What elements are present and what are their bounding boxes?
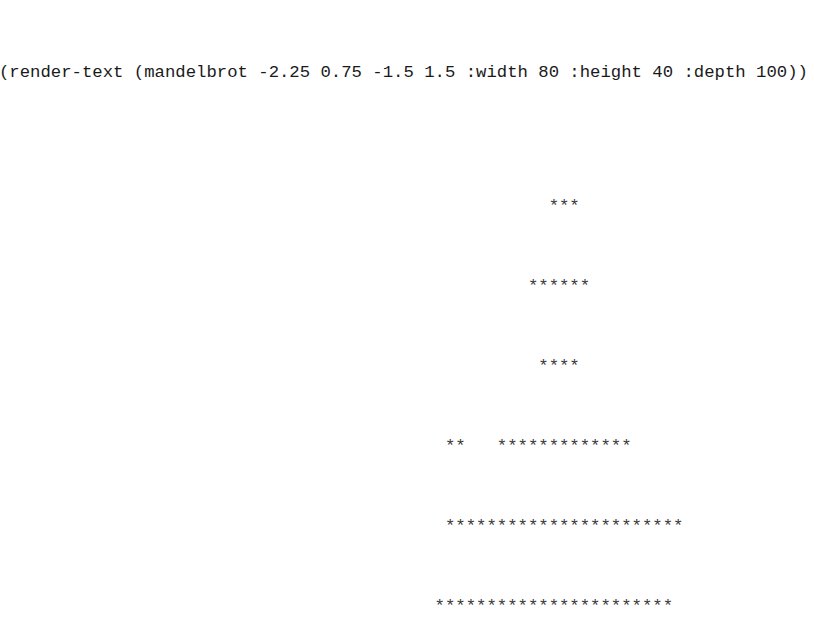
output-row: ******	[0, 274, 808, 301]
repl-console: (render-text (mandelbrot -2.25 0.75 -1.5…	[0, 7, 808, 624]
output-row: ****	[0, 354, 808, 381]
output-row: ***********************	[0, 594, 808, 621]
output-row: ***********************	[0, 514, 808, 541]
output-row: ***	[0, 194, 808, 221]
mandelbrot-output: *** ****** **** ** *************	[0, 140, 808, 624]
output-row: ** *************	[0, 434, 808, 461]
command-line: (render-text (mandelbrot -2.25 0.75 -1.5…	[0, 60, 808, 87]
